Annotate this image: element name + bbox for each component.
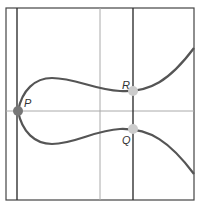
curve-lower <box>18 111 194 174</box>
curve-upper <box>18 48 194 111</box>
point-p <box>13 106 23 116</box>
label-q: Q <box>122 134 131 146</box>
elliptic-curve-diagram: P R Q <box>0 0 201 208</box>
label-r: R <box>122 79 130 91</box>
label-p: P <box>24 97 32 109</box>
point-q <box>128 124 138 134</box>
